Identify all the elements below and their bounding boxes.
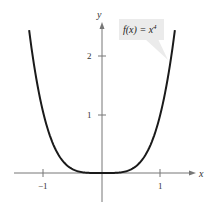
function-label-callout: f(x) = x4: [119, 19, 168, 60]
function-label: f(x) = x4: [123, 23, 157, 36]
y-ticks: 1 2: [87, 51, 106, 120]
x-tick-label-1: 1: [158, 181, 163, 191]
x-tick-label-neg1: −1: [38, 181, 48, 191]
y-tick-label-2: 2: [87, 51, 92, 61]
callout-pointer: [145, 39, 168, 60]
x-axis-label: x: [198, 168, 204, 179]
y-axis-arrow-icon: [100, 22, 105, 29]
y-tick-label-1: 1: [87, 110, 92, 120]
x-axis-arrow-icon: [189, 171, 196, 176]
function-graph: x y −1 1 1 2 f(x) = x4: [0, 0, 215, 214]
y-axis-label: y: [96, 9, 102, 20]
